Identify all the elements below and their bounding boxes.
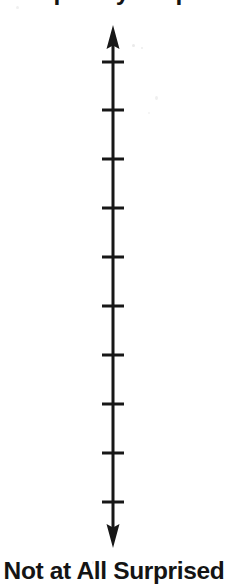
axis-arrowhead-up xyxy=(107,25,120,49)
scale-bottom-anchor-label: Not at All Surprised xyxy=(0,557,228,587)
rating-scale-figure: Completely Surprised Not at A xyxy=(0,0,228,588)
axis-arrowhead-down xyxy=(107,524,120,548)
scale-axis xyxy=(0,0,228,588)
